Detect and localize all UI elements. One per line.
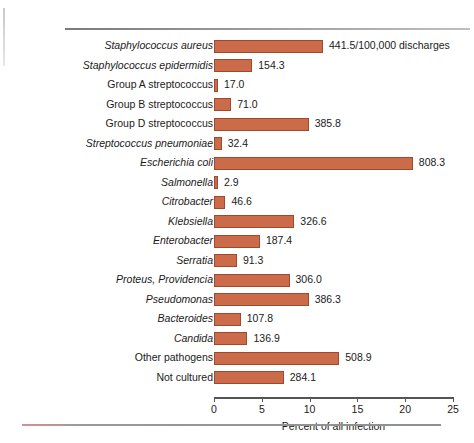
bar-row: Group A streptococcus17.0 xyxy=(40,76,474,96)
bar-value-label: 441.5/100,000 discharges xyxy=(329,39,450,52)
bar-row: Streptococcus pneumoniae32.4 xyxy=(40,135,474,155)
x-axis-tick xyxy=(405,397,406,402)
infection-pathogen-bar-chart: Staphylococcus aureus441.5/100,000 disch… xyxy=(40,16,474,443)
bar-value-label: 91.3 xyxy=(243,254,263,267)
bar-row: Citrobacter46.6 xyxy=(40,193,474,213)
bar xyxy=(214,332,247,345)
bar xyxy=(214,371,284,384)
bar xyxy=(214,79,218,92)
bar-row: Salmonella2.9 xyxy=(40,174,474,194)
bar-category-label: Pseudomonas xyxy=(43,293,213,306)
bar-row: Staphylococcus epidermidis154.3 xyxy=(40,57,474,77)
bar-row: Not cultured284.1 xyxy=(40,369,474,389)
bar-row: Pseudomonas386.3 xyxy=(40,291,474,311)
x-axis-tick-label: 5 xyxy=(259,403,265,415)
bar-value-label: 508.9 xyxy=(345,351,371,364)
plot-area: Staphylococcus aureus441.5/100,000 disch… xyxy=(40,37,474,388)
bar-value-label: 306.0 xyxy=(296,273,322,286)
bar xyxy=(214,59,252,72)
bar-track xyxy=(214,118,309,131)
bar-value-label: 71.0 xyxy=(237,98,257,111)
bar-category-label: Klebsiella xyxy=(43,215,213,228)
bar-category-label: Enterobacter xyxy=(43,234,213,247)
bar-category-label: Citrobacter xyxy=(43,195,213,208)
bar-category-label: Other pathogens xyxy=(43,351,213,364)
x-axis-title: Percent of all infection xyxy=(214,420,453,432)
bar xyxy=(214,254,237,267)
bar-value-label: 2.9 xyxy=(224,176,239,189)
bar-category-label: Not cultured xyxy=(43,371,213,384)
bar-track xyxy=(214,352,339,365)
bar xyxy=(214,98,231,111)
scan-edge-artifact xyxy=(3,8,5,66)
bar-value-label: 136.9 xyxy=(253,332,279,345)
bar-value-label: 385.8 xyxy=(315,117,341,130)
bar xyxy=(214,313,241,326)
bar-row: Enterobacter187.4 xyxy=(40,232,474,252)
bar-value-label: 386.3 xyxy=(315,293,341,306)
bar-track xyxy=(214,196,225,209)
bar-track xyxy=(214,157,413,170)
bar-track xyxy=(214,254,237,267)
bar-value-label: 154.3 xyxy=(258,59,284,72)
bar-category-label: Staphylococcus epidermidis xyxy=(43,59,213,72)
bar-row: Group D streptococcus385.8 xyxy=(40,115,474,135)
bar-row: Staphylococcus aureus441.5/100,000 disch… xyxy=(40,37,474,57)
bar-track xyxy=(214,313,241,326)
bar-track xyxy=(214,293,309,306)
bar-track xyxy=(214,274,290,287)
bar-category-label: Group D streptococcus xyxy=(43,117,213,130)
bar-value-label: 284.1 xyxy=(290,371,316,384)
bar-track xyxy=(214,79,218,92)
x-axis-tick-label: 10 xyxy=(304,403,316,415)
chart-top-rule xyxy=(65,28,470,30)
bar-row: Bacteroides107.8 xyxy=(40,310,474,330)
bar-row: Candida136.9 xyxy=(40,330,474,350)
bar-category-label: Streptococcus pneumoniae xyxy=(43,137,213,150)
bar-row: Serratia91.3 xyxy=(40,252,474,272)
bar-value-label: 32.4 xyxy=(228,137,248,150)
bar xyxy=(214,215,294,228)
bar-category-label: Proteus, Providencia xyxy=(43,273,213,286)
x-axis-tick-label: 0 xyxy=(211,403,217,415)
bar-category-label: Serratia xyxy=(43,254,213,267)
bar xyxy=(214,235,260,248)
bar-category-label: Group B streptococcus xyxy=(43,98,213,111)
bar-value-label: 107.8 xyxy=(247,312,273,325)
page-bottom-rule xyxy=(22,424,441,426)
x-axis-tick xyxy=(310,397,311,402)
bar-row: Proteus, Providencia306.0 xyxy=(40,271,474,291)
bar-row: Other pathogens508.9 xyxy=(40,349,474,369)
bar-track xyxy=(214,59,252,72)
bar-track xyxy=(214,235,260,248)
bar xyxy=(214,176,218,189)
bar-track xyxy=(214,176,218,189)
x-axis-tick-label: 15 xyxy=(352,403,364,415)
bar-value-label: 808.3 xyxy=(419,156,445,169)
x-axis-tick-label: 25 xyxy=(447,403,459,415)
x-axis-tick xyxy=(357,397,358,402)
bar-category-label: Candida xyxy=(43,332,213,345)
bar-track xyxy=(214,332,247,345)
bar-track xyxy=(214,98,231,111)
x-axis-tick xyxy=(214,397,215,402)
x-axis-tick xyxy=(262,397,263,402)
x-axis-tick-label: 20 xyxy=(399,403,411,415)
bar-category-label: Escherichia coli xyxy=(43,156,213,169)
bar xyxy=(214,157,413,170)
bar-value-label: 17.0 xyxy=(224,78,244,91)
bar-category-label: Staphylococcus aureus xyxy=(43,39,213,52)
bar xyxy=(214,118,309,131)
bar xyxy=(214,196,225,209)
bar-value-label: 187.4 xyxy=(266,234,292,247)
bar-value-label: 46.6 xyxy=(231,195,251,208)
bar-row: Group B streptococcus71.0 xyxy=(40,96,474,116)
bar-row: Escherichia coli808.3 xyxy=(40,154,474,174)
bar-category-label: Group A streptococcus xyxy=(43,78,213,91)
x-axis-tick xyxy=(453,397,454,402)
bar xyxy=(214,137,222,150)
bar-track xyxy=(214,371,284,384)
bar-category-label: Bacteroides xyxy=(43,312,213,325)
bar-category-label: Salmonella xyxy=(43,176,213,189)
bar-track xyxy=(214,215,294,228)
